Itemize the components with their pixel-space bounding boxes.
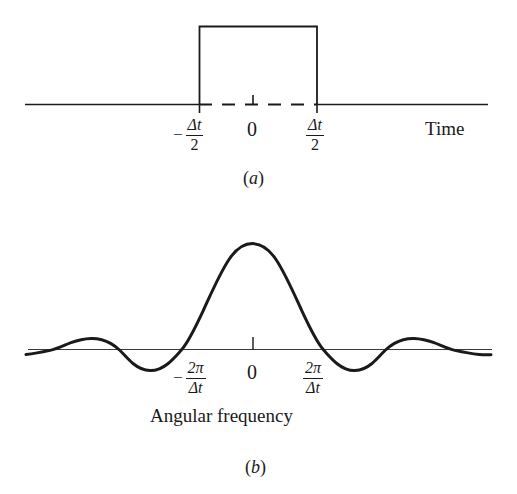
fraction-pos-2pi-dt: 2π Δt bbox=[303, 360, 323, 397]
fraction-numerator: 2π bbox=[303, 360, 323, 379]
panel-a-graphics bbox=[25, 27, 488, 114]
panel-b-tick-label-pos-2pi-dt: 2π Δt bbox=[303, 360, 323, 397]
fraction-numerator: 2π bbox=[186, 360, 206, 379]
panel-b-caption: (b) bbox=[245, 458, 266, 476]
caption-letter: a bbox=[249, 168, 258, 188]
fraction-numerator: Δt bbox=[186, 117, 204, 136]
fraction-denominator: Δt bbox=[304, 379, 322, 397]
figure-container: − Δt 2 0 Δt 2 Time (a) − 2π Δt 0 bbox=[0, 0, 517, 494]
rectangular-pulse-curve bbox=[200, 27, 318, 105]
fraction-numerator: Δt bbox=[306, 117, 324, 136]
panel-a-caption: (a) bbox=[243, 169, 264, 187]
panel-a-tick-label-pos-half-dt: Δt 2 bbox=[306, 117, 324, 154]
panel-b-axis-label: Angular frequency bbox=[150, 406, 293, 425]
panel-a-tick-label-zero: 0 bbox=[247, 119, 257, 139]
panel-b-graphics bbox=[26, 244, 492, 371]
fraction-denominator: Δt bbox=[187, 379, 205, 397]
fraction-pos-half-dt: Δt 2 bbox=[306, 117, 324, 154]
panel-b-tick-label-zero: 0 bbox=[247, 362, 257, 382]
caption-paren-close: ) bbox=[260, 457, 266, 477]
caption-letter: b bbox=[251, 457, 260, 477]
panel-b-tick-label-neg-2pi-dt: − 2π Δt bbox=[173, 360, 206, 397]
sinc-curve bbox=[26, 244, 491, 371]
fraction-denominator: 2 bbox=[189, 136, 201, 154]
fraction-neg-half-dt: Δt 2 bbox=[186, 117, 204, 154]
panel-a-tick-label-neg-half-dt: − Δt 2 bbox=[173, 117, 203, 154]
caption-paren-close: ) bbox=[258, 168, 264, 188]
fraction-neg-2pi-dt: 2π Δt bbox=[186, 360, 206, 397]
minus-sign: − bbox=[173, 369, 183, 386]
minus-sign: − bbox=[173, 126, 183, 143]
fraction-denominator: 2 bbox=[309, 136, 321, 154]
panel-a-axis-label: Time bbox=[425, 119, 464, 138]
